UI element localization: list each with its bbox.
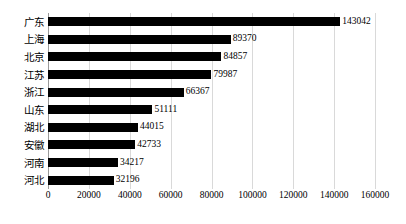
bar (48, 123, 138, 132)
category-label: 江苏 (0, 66, 44, 84)
bar (48, 105, 152, 114)
bar-value-label: 34217 (118, 158, 144, 168)
bar-row: 66367浙江 (48, 83, 375, 101)
bar-value-label: 51111 (152, 105, 177, 115)
gridline (375, 13, 376, 189)
x-tick-label: 160000 (361, 191, 390, 201)
category-label: 河南 (0, 154, 44, 172)
bar (48, 158, 118, 167)
category-label-text: 北京 (24, 52, 44, 63)
category-label: 河北 (0, 171, 44, 189)
category-label: 上海 (0, 31, 44, 49)
category-label: 湖北 (0, 119, 44, 137)
category-label-text: 河南 (24, 157, 44, 168)
bar-row: 44015湖北 (48, 119, 375, 137)
bar-value-label: 66367 (184, 87, 210, 97)
bar-value-label: 89370 (231, 35, 257, 45)
bar-chart: 143042广东89370上海84857北京79987江苏66367浙江5111… (0, 0, 406, 224)
category-label-text: 浙江 (24, 87, 44, 98)
bar-row: 84857北京 (48, 48, 375, 66)
bar (48, 70, 211, 79)
x-tick-label: 60000 (159, 191, 183, 201)
category-label-text: 安徽 (24, 140, 44, 151)
x-tick-label: 120000 (279, 191, 308, 201)
bar-row: 34217河南 (48, 154, 375, 172)
category-label-text: 湖北 (24, 122, 44, 133)
bar-value-label: 79987 (211, 70, 237, 80)
bar-row: 51111山东 (48, 101, 375, 119)
category-label-text: 山东 (24, 105, 44, 116)
bar-value-label: 32196 (114, 175, 140, 185)
category-label: 广东 (0, 13, 44, 31)
category-label: 浙江 (0, 83, 44, 101)
bar (48, 176, 114, 185)
bar-row: 143042广东 (48, 13, 375, 31)
bar-row: 79987江苏 (48, 66, 375, 84)
x-tick-label: 40000 (118, 191, 142, 201)
category-label-text: 广东 (24, 17, 44, 28)
category-label-text: 上海 (24, 34, 44, 45)
x-tick-label: 140000 (320, 191, 349, 201)
bar-value-label: 42733 (135, 140, 161, 150)
bar-value-label: 143042 (340, 17, 371, 27)
bar-row: 42733安徽 (48, 136, 375, 154)
category-label: 山东 (0, 101, 44, 119)
x-tick-label: 80000 (200, 191, 224, 201)
plot-area: 143042广东89370上海84857北京79987江苏66367浙江5111… (48, 13, 375, 189)
bar (48, 17, 340, 26)
x-tick-label: 0 (46, 191, 51, 201)
bar (48, 140, 135, 149)
bar-value-label: 84857 (221, 52, 247, 62)
bar (48, 35, 231, 44)
category-label: 北京 (0, 48, 44, 66)
bar (48, 88, 184, 97)
bar-row: 32196河北 (48, 171, 375, 189)
bar-value-label: 44015 (138, 123, 164, 133)
category-label-text: 江苏 (24, 69, 44, 80)
x-tick-label: 100000 (238, 191, 267, 201)
x-axis-tick-labels: 0200004000060000800001000001200001400001… (0, 191, 406, 211)
category-label-text: 河北 (24, 175, 44, 186)
x-tick-label: 20000 (77, 191, 101, 201)
bar (48, 52, 221, 61)
bar-row: 89370上海 (48, 31, 375, 49)
category-label: 安徽 (0, 136, 44, 154)
